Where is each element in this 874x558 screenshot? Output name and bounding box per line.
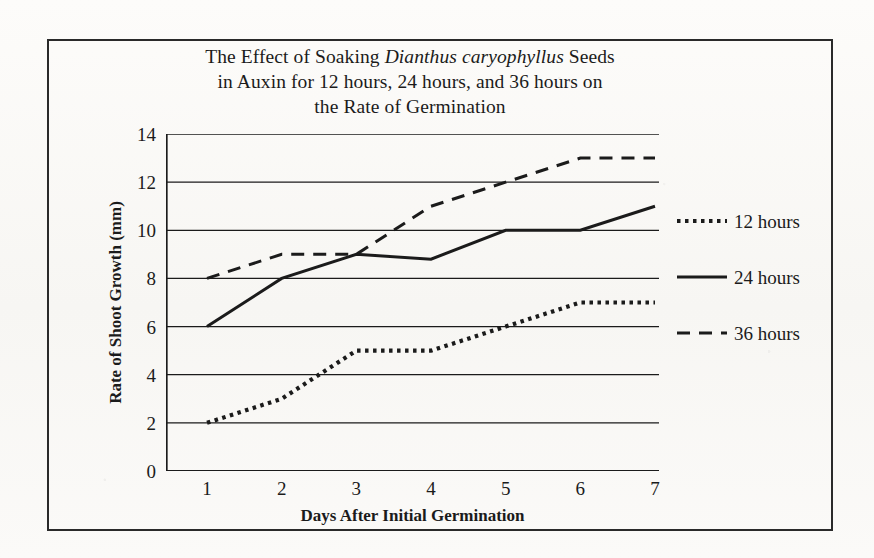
- legend-line-swatch: [676, 327, 728, 339]
- gridlines: [167, 134, 659, 471]
- chart-title-line-1: The Effect of Soaking Dianthus caryophyl…: [205, 46, 615, 67]
- legend-line-swatch: [676, 215, 728, 227]
- x-tick-label: 3: [341, 479, 371, 498]
- x-tick-label: 4: [416, 479, 446, 498]
- x-tick-label: 7: [640, 479, 670, 498]
- legend-line-swatch: [676, 271, 728, 283]
- legend-item-24-hours[interactable]: 24 hours: [676, 266, 826, 288]
- series-line-24-hours: [207, 206, 655, 326]
- plot-canvas: [166, 134, 659, 471]
- chart-title-species: Dianthus caryophyllus: [385, 46, 564, 67]
- chart-title-line-3: the Rate of Germination: [314, 96, 505, 117]
- chart-title-part-a: The Effect of Soaking: [205, 46, 384, 67]
- x-tick-label: 1: [192, 479, 222, 498]
- data-series-group: [207, 158, 655, 423]
- legend-label: 12 hours: [734, 212, 800, 231]
- y-axis-title: Rate of Shoot Growth (mm): [103, 134, 129, 471]
- plot-area: 02468101214 1234567 Rate of Shoot Growth…: [166, 134, 659, 471]
- x-tick-label: 5: [491, 479, 521, 498]
- chart-title: The Effect of Soaking Dianthus caryophyl…: [150, 44, 670, 119]
- chart-legend: 12 hours24 hours36 hours: [676, 210, 826, 378]
- x-axis-tick-labels: 1234567: [166, 479, 659, 503]
- x-tick-label: 2: [267, 479, 297, 498]
- series-line-12-hours: [207, 303, 655, 423]
- x-axis-title: Days After Initial Germination: [166, 506, 659, 526]
- legend-label: 36 hours: [734, 324, 800, 343]
- chart-title-line-2: in Auxin for 12 hours, 24 hours, and 36 …: [217, 71, 602, 92]
- chart-title-part-b: Seeds: [564, 46, 615, 67]
- figure-page: The Effect of Soaking Dianthus caryophyl…: [0, 0, 874, 558]
- legend-item-12-hours[interactable]: 12 hours: [676, 210, 826, 232]
- legend-item-36-hours[interactable]: 36 hours: [676, 322, 826, 344]
- x-tick-label: 6: [565, 479, 595, 498]
- legend-label: 24 hours: [734, 268, 800, 287]
